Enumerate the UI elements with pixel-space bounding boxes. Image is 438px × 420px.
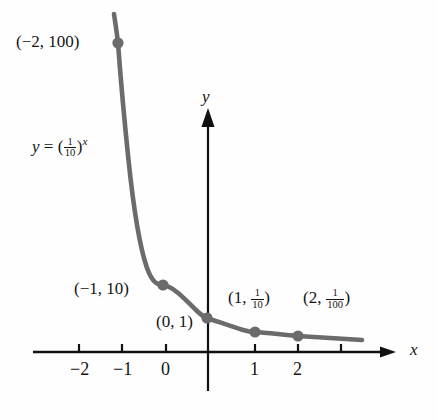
label-point-two-close: )	[344, 288, 350, 307]
equation-y-symbol: y	[32, 137, 40, 156]
data-point-two	[292, 330, 303, 341]
label-point-zero: (0, 1)	[156, 313, 193, 330]
x-tick-label-two: 2	[293, 360, 302, 378]
fraction-denominator: 10	[251, 300, 264, 311]
fraction-one-tenth: 110	[64, 137, 77, 160]
fraction-one-tenth: 110	[251, 288, 264, 311]
label-point-two: (2, 1100)	[303, 288, 350, 311]
data-point-neg2	[112, 37, 123, 48]
fraction-numerator: 1	[326, 288, 344, 300]
fraction-denominator: 100	[326, 300, 344, 311]
x-tick-label-neg1: −1	[113, 360, 132, 378]
label-point-neg2: (−2, 100)	[16, 33, 79, 50]
x-tick-label-one: 1	[250, 360, 259, 378]
curve-equation-label: y = (110)x	[32, 136, 88, 159]
x-axis-label: x	[410, 341, 418, 358]
y-axis-label: y	[202, 88, 210, 105]
fraction-denominator: 10	[64, 148, 77, 159]
data-point-neg1	[157, 279, 168, 290]
data-point-zero	[201, 312, 212, 323]
fraction-numerator: 1	[251, 288, 264, 300]
y-axis	[202, 108, 215, 391]
label-point-one-open: (1,	[228, 288, 251, 307]
data-point-one	[249, 326, 260, 337]
fraction-one-hundredth: 1100	[326, 288, 344, 311]
x-tick-label-zero: 0	[161, 360, 170, 378]
label-point-one: (1, 110)	[228, 288, 270, 311]
equation-open-paren: (	[58, 137, 64, 156]
equation-exponent: x	[83, 135, 88, 147]
label-point-one-close: )	[264, 288, 270, 307]
label-point-neg1: (−1, 10)	[74, 280, 129, 297]
exponential-decay-graph-figure: (−2, 100) (−1, 10) (0, 1) (1, 110) (2, 1…	[0, 0, 438, 420]
graph-canvas	[0, 0, 438, 420]
equation-equals-sign: =	[44, 137, 54, 156]
equation-base: (110)x	[58, 137, 88, 156]
label-point-two-open: (2,	[303, 288, 326, 307]
x-tick-label-neg2: −2	[70, 360, 89, 378]
